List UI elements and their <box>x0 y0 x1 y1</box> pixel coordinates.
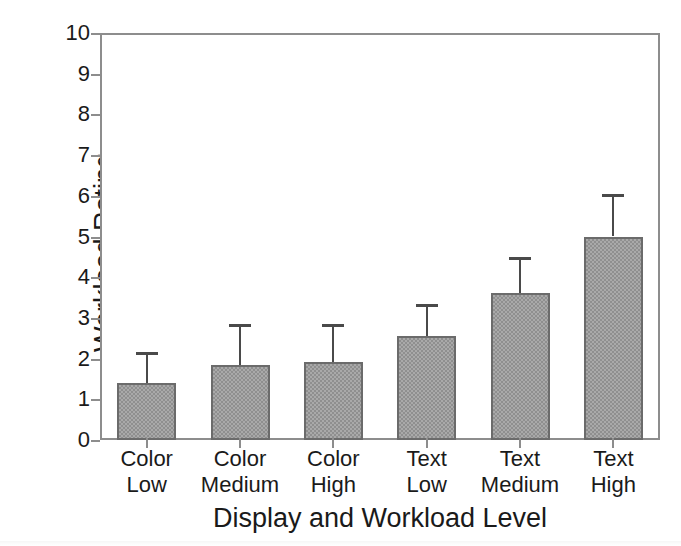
x-axis-tick-label-line: Text <box>567 446 660 472</box>
y-axis-tick-label: 3 <box>48 307 90 329</box>
error-bar-stem <box>239 324 241 365</box>
y-axis-tick-mark <box>91 440 100 442</box>
error-bar-stem <box>146 352 148 383</box>
y-axis-tick-label: 6 <box>48 185 90 207</box>
y-axis-tick-mark <box>91 74 100 76</box>
bar <box>584 237 643 441</box>
y-axis-tick-mark <box>91 399 100 401</box>
x-axis-tick-label-line: Medium <box>473 472 566 498</box>
error-bar-stem <box>332 324 334 361</box>
plot-area <box>100 33 660 440</box>
bar <box>397 336 456 440</box>
x-axis-tick-label: TextMedium <box>473 446 566 498</box>
error-bar-stem <box>519 257 521 294</box>
x-axis-tick-label-line: Medium <box>193 472 286 498</box>
error-bar-cap <box>322 324 344 327</box>
scan-edge-artifact <box>0 541 681 546</box>
y-axis-tick-label: 5 <box>48 226 90 248</box>
y-axis-tick-mark <box>91 318 100 320</box>
error-bar-cap <box>509 257 531 260</box>
x-axis-tick-label: TextHigh <box>567 446 660 498</box>
x-axis-tick-label-line: Color <box>287 446 380 472</box>
x-axis-title: Display and Workload Level <box>100 503 660 534</box>
x-axis-tick-label: ColorLow <box>100 446 193 498</box>
x-axis-tick-label: TextLow <box>380 446 473 498</box>
y-axis-tick-mark <box>91 196 100 198</box>
y-axis-tick-label: 0 <box>48 429 90 451</box>
y-axis-tick-label: 10 <box>48 22 90 44</box>
y-axis-tick-label: 2 <box>48 348 90 370</box>
x-axis-tick-label: ColorHigh <box>287 446 380 498</box>
y-axis-tick-mark <box>91 359 100 361</box>
x-axis-tick-labels: ColorLowColorMediumColorHighTextLowTextM… <box>100 446 660 502</box>
error-bar-cap <box>602 194 624 197</box>
x-axis-tick-label-line: Low <box>100 472 193 498</box>
x-axis-tick-label-line: Color <box>100 446 193 472</box>
bar <box>211 365 270 440</box>
bar <box>491 293 550 440</box>
y-axis-tick-label: 8 <box>48 103 90 125</box>
y-axis-tick-mark <box>91 277 100 279</box>
error-bar-cap <box>136 352 158 355</box>
y-axis-tick-mark <box>91 237 100 239</box>
error-bar-stem <box>426 304 428 337</box>
error-bar-cap <box>229 324 251 327</box>
bar <box>117 383 176 440</box>
x-axis-tick-label-line: High <box>567 472 660 498</box>
workload-rating-bar-chart: Workload Rating 012345678910 ColorLowCol… <box>0 0 681 546</box>
y-axis-tick-label: 4 <box>48 266 90 288</box>
x-axis-tick-label-line: Text <box>380 446 473 472</box>
y-axis-tick-mark <box>91 33 100 35</box>
bar <box>304 362 363 440</box>
x-axis-tick-label-line: High <box>287 472 380 498</box>
y-axis-tick-mark <box>91 155 100 157</box>
y-axis-tick-label: 9 <box>48 63 90 85</box>
x-axis-tick-label-line: Color <box>193 446 286 472</box>
x-axis-tick-label-line: Low <box>380 472 473 498</box>
y-axis-tick-label: 1 <box>48 388 90 410</box>
y-axis-tick-label: 7 <box>48 144 90 166</box>
x-axis-tick-label: ColorMedium <box>193 446 286 498</box>
y-axis-tick-mark <box>91 114 100 116</box>
error-bar-cap <box>416 304 438 307</box>
error-bar-stem <box>612 194 614 237</box>
x-axis-tick-label-line: Text <box>473 446 566 472</box>
y-axis-tick-labels: 012345678910 <box>44 0 90 546</box>
